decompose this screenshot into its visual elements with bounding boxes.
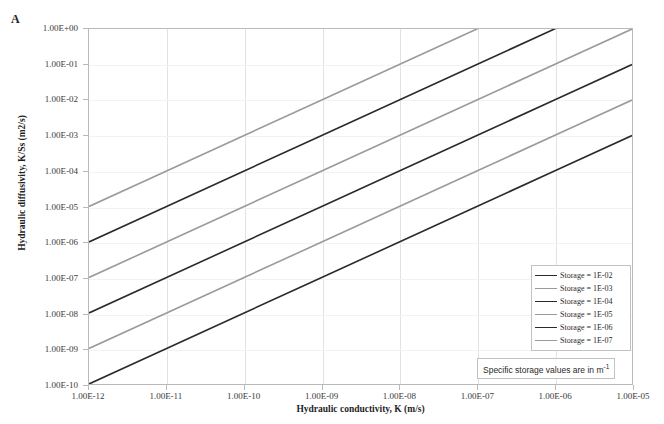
legend-line-swatch [535,288,557,289]
x-axis-tick-mark [88,385,89,390]
legend-line-swatch [535,327,557,328]
y-axis-tick-label: 1.00E-03 [14,131,78,140]
legend-item-label: Storage = 1E-02 [560,272,613,280]
legend-item[interactable]: Storage = 1E-03 [535,282,626,295]
legend-item-label: Storage = 1E-07 [560,337,613,345]
data-line-series-4 [89,29,632,278]
x-axis-title: Hydraulic conductivity, K (m/s) [88,404,633,414]
y-axis-tick-label: 1.00E-07 [14,274,78,283]
footnote-box: Specific storage values are in m-1 [477,358,615,379]
legend-item[interactable]: Storage = 1E-02 [535,269,626,282]
footnote-superscript: -1 [603,363,609,370]
y-axis-tick-label: 1.00E-10 [14,381,78,390]
x-axis-tick-label: 1.00E-12 [53,392,123,401]
legend-item[interactable]: Storage = 1E-04 [535,295,626,308]
legend-line-swatch [535,301,557,302]
x-axis-tick-label: 1.00E-07 [442,392,512,401]
legend: Storage = 1E-02Storage = 1E-03Storage = … [531,265,631,351]
y-axis-tick-label: 1.00E-08 [14,310,78,319]
y-axis-tick-label: 1.00E-04 [14,167,78,176]
data-line-series-5 [89,29,632,242]
x-axis-tick-mark [244,385,245,390]
legend-item-label: Storage = 1E-05 [560,311,613,319]
y-axis-tick-label: 1.00E+00 [14,24,78,33]
y-axis-tick-label: 1.00E-09 [14,345,78,354]
x-axis-tick-mark [399,385,400,390]
y-axis-tick-label: 1.00E-06 [14,238,78,247]
y-axis-tick-label: 1.00E-01 [14,60,78,69]
x-axis-tick-label: 1.00E-09 [287,392,357,401]
legend-item[interactable]: Storage = 1E-06 [535,321,626,334]
y-axis-tick-label: 1.00E-05 [14,203,78,212]
legend-line-swatch [535,314,557,315]
legend-item[interactable]: Storage = 1E-07 [535,334,626,347]
x-axis-tick-mark [633,385,634,390]
x-axis-tick-mark [477,385,478,390]
x-axis-tick-mark [322,385,323,390]
x-axis-tick-mark [166,385,167,390]
x-axis-tick-label: 1.00E-10 [209,392,279,401]
legend-item[interactable]: Storage = 1E-05 [535,308,626,321]
y-axis-tick-label: 1.00E-02 [14,95,78,104]
x-axis-tick-label: 1.00E-06 [520,392,590,401]
legend-item-label: Storage = 1E-04 [560,298,613,306]
x-axis-tick-mark [555,385,556,390]
x-axis-tick-label: 1.00E-11 [131,392,201,401]
legend-item-label: Storage = 1E-03 [560,285,613,293]
x-axis-tick-label: 1.00E-08 [364,392,434,401]
chart-figure: A Hydraulic diffusivity, K/Ss (m2/s) Hyd… [0,0,664,424]
x-axis-tick-label: 1.00E-05 [598,392,664,401]
footnote-text: Specific storage values are in m [483,365,603,375]
legend-line-swatch [535,340,557,341]
legend-line-swatch [535,275,557,276]
legend-item-label: Storage = 1E-06 [560,324,613,332]
y-axis-title: Hydraulic diffusivity, K/Ss (m2/s) [17,83,27,283]
